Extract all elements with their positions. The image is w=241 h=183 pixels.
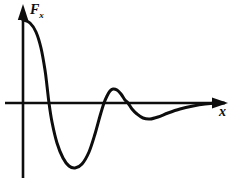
- damped-oscillation-figure: [0, 0, 241, 183]
- figure-root: Fx x: [0, 0, 241, 183]
- x-axis-label: x: [219, 105, 226, 119]
- damped-oscillation-curve: [23, 20, 224, 168]
- y-axis-label-subscript: x: [39, 11, 44, 20]
- y-axis-label: Fx: [30, 1, 44, 20]
- y-axis-arrowhead-icon: [18, 4, 28, 20]
- y-axis-label-main: F: [30, 3, 39, 17]
- y-axis-group: [18, 4, 28, 178]
